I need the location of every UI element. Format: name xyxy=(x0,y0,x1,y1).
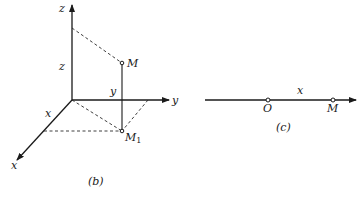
z-axis-label: z xyxy=(58,2,65,15)
point-m1-label-subscript: 1 xyxy=(136,136,141,145)
segment-x-label: x xyxy=(297,84,304,97)
z-coordinate-label: z xyxy=(58,60,65,73)
y-axis-label: y xyxy=(171,94,179,107)
y-coordinate-label: y xyxy=(109,85,117,98)
figure-b-caption: (b) xyxy=(88,175,104,188)
figure-canvas: z y x z y x M M1 (b) x O M (c) xyxy=(0,0,360,197)
point-m xyxy=(120,61,124,65)
point-m-line-label: M xyxy=(326,102,339,115)
y-to-m1-dashed-line xyxy=(122,100,148,131)
point-m-label: M xyxy=(126,57,139,70)
figure-c-caption: (c) xyxy=(276,121,291,134)
figure-c: x O M (c) xyxy=(205,84,356,134)
point-m1-label: M1 xyxy=(124,131,141,145)
point-m1 xyxy=(120,129,124,133)
figure-b: z y x z y x M M1 (b) xyxy=(11,2,179,188)
point-o-label: O xyxy=(263,102,272,115)
origin-to-m1-dashed-line xyxy=(72,100,122,131)
point-m1-label-base: M xyxy=(124,131,137,144)
x-axis-label: x xyxy=(11,159,18,172)
z-projection-dashed-line xyxy=(72,28,122,63)
x-coordinate-label: x xyxy=(45,107,52,120)
